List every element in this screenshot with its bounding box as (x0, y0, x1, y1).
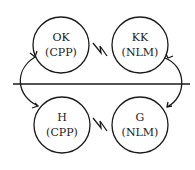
node-kk-group: (NLM) (122, 46, 159, 59)
arrowhead-icon-right-top (166, 54, 173, 58)
node-ok-name: OK (52, 31, 70, 44)
arrow-left-arc (20, 57, 38, 106)
lightning-bolt-icon-bottom (93, 118, 107, 131)
node-ok-group: (CPP) (45, 46, 77, 59)
node-h-group: (CPP) (46, 126, 78, 139)
node-kk: KK (NLM) (112, 17, 168, 73)
node-g: G (NLM) (112, 97, 168, 153)
node-h: H (CPP) (34, 97, 90, 153)
diagram-canvas: OK (CPP) KK (NLM) H (CPP) G (NLM) (0, 0, 195, 170)
node-kk-name: KK (132, 31, 149, 44)
node-ok: OK (CPP) (33, 17, 89, 73)
arrow-right-arc (165, 58, 182, 107)
lightning-bolt-icon-top (93, 43, 107, 56)
node-g-group: (NLM) (122, 126, 159, 139)
node-g-name: G (136, 111, 145, 124)
node-h-name: H (57, 111, 67, 124)
